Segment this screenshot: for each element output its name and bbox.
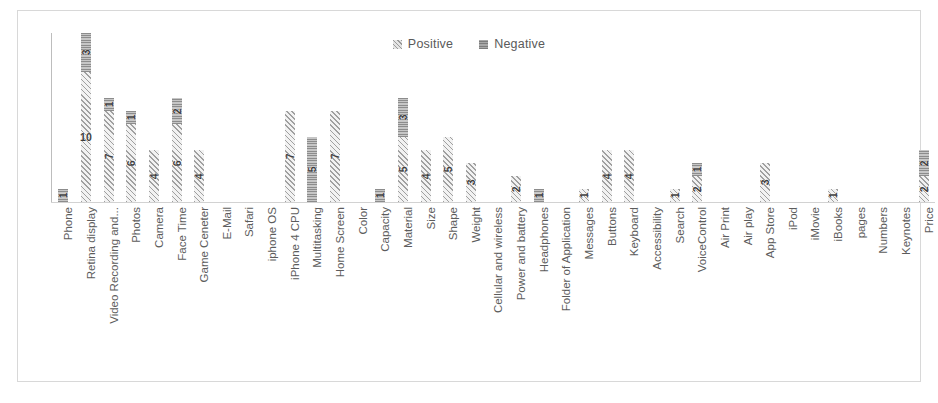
bar-stack[interactable]: 1 (534, 189, 544, 202)
bar-segment-positive[interactable]: 4 (602, 150, 612, 202)
bar-segment-positive[interactable]: 2 (511, 176, 521, 202)
x-axis-tick-label: iPod (788, 207, 800, 230)
bar-stack[interactable]: 5 (307, 137, 317, 202)
bar-column[interactable] (256, 33, 279, 202)
bar-segment-negative[interactable]: 2 (919, 150, 929, 176)
bar-stack[interactable]: 1 (670, 189, 680, 202)
bar-column[interactable]: 1 (663, 33, 686, 202)
bar-column[interactable]: 3 (460, 33, 483, 202)
bar-stack[interactable]: 4 (602, 150, 612, 202)
bar-stack[interactable]: 4 (421, 150, 431, 202)
bar-stack[interactable]: 1 (58, 189, 68, 202)
bar-column[interactable]: 2 (505, 33, 528, 202)
bar-segment-negative[interactable]: 1 (692, 163, 702, 176)
bar-stack[interactable]: 1 (828, 189, 838, 202)
bar-stack[interactable]: 4 (194, 150, 204, 202)
bar-column[interactable] (844, 33, 867, 202)
bar-stack[interactable]: 4 (149, 150, 159, 202)
bar-column[interactable]: 35 (392, 33, 415, 202)
bar-column[interactable] (799, 33, 822, 202)
bar-column[interactable]: 1 (369, 33, 392, 202)
bar-column[interactable]: 4 (618, 33, 641, 202)
bar-segment-negative[interactable]: 1 (58, 189, 68, 202)
bar-stack[interactable]: 35 (398, 98, 408, 202)
bar-stack[interactable]: 17 (104, 98, 114, 202)
bar-column[interactable]: 5 (301, 33, 324, 202)
bar-segment-positive[interactable]: 1 (670, 189, 680, 202)
bar-segment-positive[interactable]: 5 (443, 137, 453, 202)
bar-column[interactable]: 26 (165, 33, 188, 202)
bar-segment-positive[interactable]: 6 (172, 124, 182, 202)
bar-column[interactable] (890, 33, 913, 202)
bar-column[interactable]: 1 (573, 33, 596, 202)
bar-stack[interactable]: 7 (285, 111, 295, 202)
bar-segment-positive[interactable]: 10 (81, 72, 91, 202)
bar-column[interactable] (641, 33, 664, 202)
bar-column[interactable]: 1 (822, 33, 845, 202)
bar-column[interactable]: 4 (188, 33, 211, 202)
bar-segment-positive[interactable]: 4 (624, 150, 634, 202)
bar-stack[interactable]: 5 (443, 137, 453, 202)
bar-column[interactable]: 3 (754, 33, 777, 202)
bar-column[interactable]: 22 (912, 33, 935, 202)
bar-column[interactable] (550, 33, 573, 202)
bar-column[interactable] (482, 33, 505, 202)
bar-segment-positive[interactable]: 4 (421, 150, 431, 202)
bar-stack[interactable]: 1 (375, 189, 385, 202)
bar-column[interactable] (233, 33, 256, 202)
bar-segment-positive[interactable]: 7 (285, 111, 295, 202)
bar-segment-positive[interactable]: 1 (828, 189, 838, 202)
bar-column[interactable] (346, 33, 369, 202)
bar-stack[interactable]: 1 (579, 189, 589, 202)
bar-column[interactable] (777, 33, 800, 202)
bar-segment-negative[interactable]: 1 (375, 189, 385, 202)
bar-stack[interactable]: 26 (172, 98, 182, 202)
bar-segment-positive[interactable]: 4 (194, 150, 204, 202)
x-axis-tick: Retina display (75, 205, 98, 365)
bar-segment-negative[interactable]: 3 (398, 98, 408, 137)
bar-segment-negative[interactable]: 1 (534, 189, 544, 202)
bar-column[interactable]: 4 (143, 33, 166, 202)
bar-segment-positive[interactable]: 4 (149, 150, 159, 202)
bar-segment-positive[interactable]: 3 (466, 163, 476, 202)
bar-column[interactable]: 4 (414, 33, 437, 202)
bar-value-label: 1 (828, 193, 839, 199)
bar-column[interactable] (210, 33, 233, 202)
bar-column[interactable] (867, 33, 890, 202)
bar-stack[interactable]: 16 (126, 111, 136, 202)
bar-column[interactable]: 5 (437, 33, 460, 202)
bar-segment-negative[interactable]: 5 (307, 137, 317, 202)
bar-stack[interactable]: 12 (692, 163, 702, 202)
bar-column[interactable]: 310 (75, 33, 98, 202)
bar-stack[interactable]: 3 (466, 163, 476, 202)
bar-segment-positive[interactable]: 3 (760, 163, 770, 202)
bar-column[interactable]: 1 (52, 33, 75, 202)
bar-column[interactable]: 17 (97, 33, 120, 202)
bar-column[interactable]: 7 (324, 33, 347, 202)
bar-column[interactable] (709, 33, 732, 202)
bar-column[interactable]: 7 (278, 33, 301, 202)
bar-segment-positive[interactable]: 2 (919, 176, 929, 202)
bar-column[interactable]: 1 (527, 33, 550, 202)
bar-segment-positive[interactable]: 7 (330, 111, 340, 202)
x-axis-tick: Numbers (867, 205, 890, 365)
bar-stack[interactable]: 7 (330, 111, 340, 202)
bar-stack[interactable]: 2 (511, 176, 521, 202)
bar-segment-positive[interactable]: 1 (579, 189, 589, 202)
bar-segment-positive[interactable]: 6 (126, 124, 136, 202)
bar-segment-negative[interactable]: 2 (172, 98, 182, 124)
bar-stack[interactable]: 22 (919, 150, 929, 202)
bar-column[interactable] (731, 33, 754, 202)
bar-column[interactable]: 16 (120, 33, 143, 202)
bar-segment-negative[interactable]: 3 (81, 33, 91, 72)
bar-stack[interactable]: 310 (81, 33, 91, 202)
bar-segment-positive[interactable]: 7 (104, 111, 114, 202)
bar-segment-positive[interactable]: 2 (692, 176, 702, 202)
bar-segment-positive[interactable]: 5 (398, 137, 408, 202)
bar-stack[interactable]: 4 (624, 150, 634, 202)
bar-segment-negative[interactable]: 1 (126, 111, 136, 124)
bar-segment-negative[interactable]: 1 (104, 98, 114, 111)
bar-column[interactable]: 4 (595, 33, 618, 202)
bar-stack[interactable]: 3 (760, 163, 770, 202)
bar-column[interactable]: 12 (686, 33, 709, 202)
